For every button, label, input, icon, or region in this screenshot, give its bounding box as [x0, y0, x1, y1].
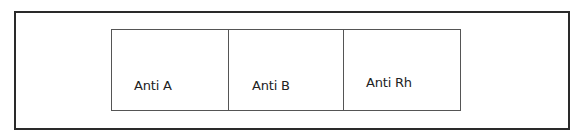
cell-label: Anti B [252, 78, 290, 93]
cell-label: Anti Rh [366, 75, 412, 90]
reagent-test-grid: Anti A Anti B Anti Rh [111, 29, 461, 111]
cell-anti-b: Anti B [229, 30, 344, 110]
cell-anti-rh: Anti Rh [344, 30, 461, 110]
cell-label: Anti A [134, 78, 172, 93]
cell-anti-a: Anti A [112, 30, 229, 110]
